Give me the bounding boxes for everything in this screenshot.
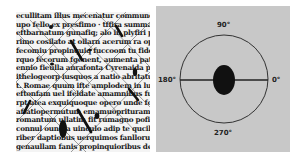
angle-label-180: 180°: [158, 76, 176, 84]
angle-label-90: 90°: [217, 21, 230, 29]
angle-label-0: 0°: [272, 76, 280, 84]
polar-orientation-diagram: 90° 180° 0° 270°: [156, 6, 290, 152]
document-text-image: ecullitam illus mecenatur communem deduf…: [16, 12, 150, 152]
angle-label-270: 270°: [214, 129, 232, 137]
stroke-overlay: [16, 12, 150, 152]
orientation-blob: [213, 65, 235, 95]
